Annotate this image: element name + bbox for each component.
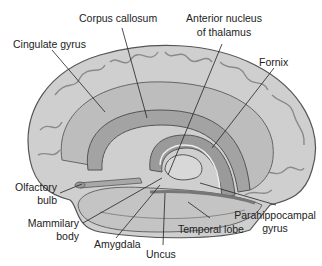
label-uncus: Uncus	[146, 248, 176, 260]
label-olfactory-bulb-line1: Olfactory	[0, 181, 57, 193]
label-mammilary-body-line1: Mammilary	[0, 217, 79, 229]
label-cingulate-gyrus: Cingulate gyrus	[13, 38, 86, 50]
label-amygdala: Amygdala	[94, 238, 141, 250]
brain-diagram: Corpus callosum Cingulate gyrus Anterior…	[0, 0, 322, 266]
label-parahippocampal-line2: gyrus	[228, 222, 322, 234]
label-anterior-nucleus-line2: of thalamus	[184, 26, 264, 38]
label-corpus-callosum: Corpus callosum	[79, 12, 157, 24]
label-parahippocampal-line1: Parahippocampal	[228, 209, 322, 221]
thalamus-region	[165, 155, 202, 180]
label-mammilary-body-line2: body	[0, 230, 79, 242]
label-anterior-nucleus-line1: Anterior nucleus	[184, 12, 264, 24]
label-fornix: Fornix	[259, 56, 288, 68]
label-olfactory-bulb-line2: bulb	[0, 194, 57, 206]
